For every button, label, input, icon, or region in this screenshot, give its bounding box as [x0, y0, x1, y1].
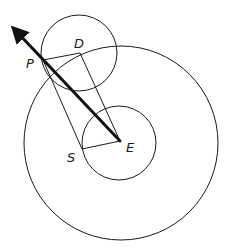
line-S-P — [43, 60, 82, 149]
inner-circle — [82, 106, 156, 180]
epicycle-diagram: D P S E — [0, 0, 229, 251]
line-E-S — [82, 141, 120, 149]
deferent-circle — [24, 46, 218, 240]
line-P-D — [43, 53, 80, 60]
arrow-E-P — [17, 32, 120, 141]
label-S: S — [67, 150, 75, 165]
line-D-E — [80, 53, 120, 141]
label-D: D — [74, 36, 84, 51]
label-P: P — [26, 56, 34, 71]
label-E: E — [126, 140, 135, 155]
